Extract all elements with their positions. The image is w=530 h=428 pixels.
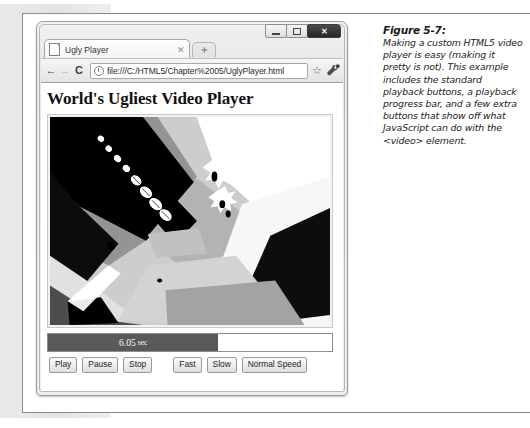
minimize-button[interactable] <box>265 24 287 38</box>
figure-caption-text: Making a custom HTML5 video player is ea… <box>383 37 525 147</box>
bookmark-star-icon[interactable]: ☆ <box>312 64 322 77</box>
playback-progress-bar[interactable]: 6.05 sec <box>47 333 333 352</box>
figure-number: Figure 5-7: <box>383 24 525 36</box>
close-button[interactable]: ✕ <box>307 24 341 38</box>
page-title: World's Ugliest Video Player <box>47 89 343 109</box>
minimize-icon <box>272 33 280 35</box>
progress-time-value: 6.05 <box>119 338 136 348</box>
page-content: World's Ugliest Video Player <box>41 82 343 391</box>
video-frame <box>47 114 333 328</box>
pause-button[interactable]: Pause <box>82 357 118 373</box>
tab-ugly-player[interactable]: Ugly Player ✕ <box>44 39 190 59</box>
address-bar[interactable]: file:///C:/HTML5/Chapter%2005/UglyPlayer… <box>90 63 308 79</box>
reload-button[interactable]: C <box>72 65 86 76</box>
maximize-icon <box>293 28 301 35</box>
video-element[interactable] <box>50 117 330 325</box>
figure-caption: Figure 5-7: Making a custom HTML5 video … <box>383 24 525 147</box>
window-controls: ✕ <box>266 23 341 39</box>
forward-button[interactable]: → <box>58 65 72 76</box>
browser-window: ✕ Ugly Player ✕ ✛ ← → C file:///C:/HTML5… <box>36 21 348 396</box>
playback-controls: Play Pause Stop Fast Slow Normal Speed <box>49 357 343 373</box>
page-icon <box>49 43 60 56</box>
browser-toolbar: ← → C file:///C:/HTML5/Chapter%2005/Ugly… <box>41 58 343 82</box>
tab-strip: Ugly Player ✕ ✛ <box>42 38 342 59</box>
back-button[interactable]: ← <box>44 65 58 76</box>
wrench-menu-icon[interactable] <box>326 64 340 78</box>
book-page-scan: Figure 5-7: Making a custom HTML5 video … <box>0 0 530 428</box>
maximize-button[interactable] <box>286 24 308 38</box>
new-tab-button[interactable]: ✛ <box>192 42 216 57</box>
tab-title: Ugly Player <box>65 45 175 55</box>
tab-close-icon[interactable]: ✕ <box>177 45 185 55</box>
progress-time-unit: sec <box>138 338 148 347</box>
address-bar-url: file:///C:/HTML5/Chapter%2005/UglyPlayer… <box>107 66 304 76</box>
page-gutter-top-edge <box>0 0 111 4</box>
page-info-icon <box>94 66 104 76</box>
slow-button[interactable]: Slow <box>207 357 237 373</box>
stop-button[interactable]: Stop <box>123 357 152 373</box>
fast-button[interactable]: Fast <box>173 357 201 373</box>
play-button[interactable]: Play <box>49 357 77 373</box>
normal-speed-button[interactable]: Normal Speed <box>242 357 308 373</box>
progress-time-label: 6.05 sec <box>48 334 218 351</box>
